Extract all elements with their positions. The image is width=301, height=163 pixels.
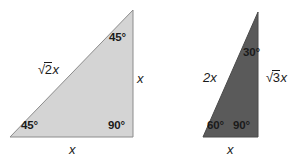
geometry-figure: 45° 45° 90° √2x x x 30° 60° 90° 2x √3x x	[0, 0, 301, 163]
radical-group: √2	[38, 62, 52, 76]
left-triangle-vertical-side-label: x	[137, 72, 144, 85]
radical-tail: x	[52, 62, 59, 77]
right-triangle-angle-bottom-right: 90°	[233, 120, 250, 132]
left-triangle-hypotenuse-label: √2x	[38, 62, 59, 76]
triangle-45-45-90-shape	[10, 10, 133, 137]
right-triangle-base-label: x	[227, 143, 234, 156]
left-triangle-angle-bottom-left: 45°	[21, 120, 38, 132]
right-triangle-vertical-side-label: √3x	[266, 70, 287, 84]
radical-tail: x	[280, 70, 287, 85]
right-triangle-angle-bottom-left: 60°	[207, 120, 224, 132]
triangles-canvas	[0, 0, 301, 163]
left-triangle-base-label: x	[69, 143, 76, 156]
left-triangle-angle-bottom-right: 90°	[108, 120, 125, 132]
radical-group: √3	[266, 70, 280, 84]
left-triangle-angle-top: 45°	[109, 32, 126, 44]
right-triangle-angle-top: 30°	[243, 47, 260, 59]
right-triangle-hypotenuse-label: 2x	[203, 71, 217, 84]
